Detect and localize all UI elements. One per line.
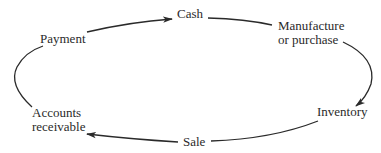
line-inventory-to-sale xyxy=(211,121,318,141)
node-payment: Payment xyxy=(40,32,86,46)
line-cash-to-manufacture xyxy=(208,18,272,25)
arrow-sale-to-receivable xyxy=(87,134,178,142)
arrow-payment-to-cash xyxy=(87,19,172,32)
node-manufacture-line2: or purchase xyxy=(278,33,338,47)
node-receivable-line1: Accounts xyxy=(32,106,81,120)
node-inventory: Inventory xyxy=(317,105,368,119)
arrow-manufacture-to-inventory xyxy=(343,42,372,106)
node-manufacture-line1: Manufacture xyxy=(278,19,344,33)
operating-cycle-diagram: Cash Manufacture or purchase Inventory S… xyxy=(0,0,381,153)
node-cash: Cash xyxy=(177,7,203,21)
line-receivable-to-payment xyxy=(15,46,43,107)
node-sale: Sale xyxy=(183,135,205,149)
node-receivable-line2: receivable xyxy=(32,120,85,134)
